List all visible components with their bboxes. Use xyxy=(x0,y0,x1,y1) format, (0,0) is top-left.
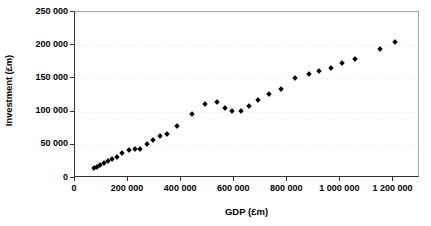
x-axis-tick xyxy=(180,177,181,181)
y-axis-tick-label: 0 xyxy=(63,173,68,182)
data-point xyxy=(255,97,261,103)
gridline xyxy=(75,78,418,79)
investment-gdp-scatter-chart: Investment (£m) 050 000100 000150 000200… xyxy=(0,0,431,226)
data-point xyxy=(238,108,244,114)
data-point xyxy=(292,75,298,81)
data-point xyxy=(144,142,150,148)
x-axis-title-label: GDP (£m) xyxy=(225,206,268,217)
data-point xyxy=(150,137,156,143)
x-axis-tick-label: 400 000 xyxy=(164,184,197,193)
gridline xyxy=(75,112,418,113)
data-point xyxy=(229,108,235,114)
plot-area xyxy=(74,11,419,177)
data-point xyxy=(266,91,272,97)
x-axis-tick xyxy=(127,177,128,181)
data-point xyxy=(114,154,120,160)
y-axis-title: Investment (£m) xyxy=(0,0,18,180)
x-axis-tick-label: 800 000 xyxy=(270,184,303,193)
data-point xyxy=(306,72,312,78)
x-axis-tick xyxy=(339,177,340,181)
x-axis-tick-label: 1 000 000 xyxy=(319,184,359,193)
data-point xyxy=(137,146,143,152)
x-axis-tick-label: 200 000 xyxy=(111,184,144,193)
data-point xyxy=(377,46,383,52)
x-axis-tick xyxy=(233,177,234,181)
x-axis-title: GDP (£m) xyxy=(74,206,419,217)
data-point xyxy=(392,39,398,45)
data-point xyxy=(157,133,163,139)
data-point xyxy=(105,158,111,164)
data-point xyxy=(339,60,345,66)
data-point xyxy=(97,162,103,168)
data-point xyxy=(109,157,115,163)
data-point xyxy=(165,131,171,137)
data-point xyxy=(101,160,107,166)
data-point xyxy=(91,166,97,172)
data-point xyxy=(202,101,208,107)
data-point xyxy=(278,87,284,93)
data-point xyxy=(246,103,252,109)
y-axis-tick-label: 100 000 xyxy=(35,106,68,115)
y-axis-tick-label: 50 000 xyxy=(40,139,68,148)
data-point xyxy=(174,123,180,129)
y-axis-tick-label: 250 000 xyxy=(35,7,68,16)
data-points-layer xyxy=(75,12,418,176)
data-point xyxy=(214,99,220,105)
data-point xyxy=(127,147,133,153)
data-point xyxy=(94,164,100,170)
data-point xyxy=(222,105,228,111)
x-axis-tick xyxy=(392,177,393,181)
x-axis-tick-label: 1 200 000 xyxy=(372,184,412,193)
x-axis-tick-label: 0 xyxy=(71,184,76,193)
x-axis-tick xyxy=(74,177,75,181)
x-axis-tick-label: 600 000 xyxy=(217,184,250,193)
y-axis-tick-label: 150 000 xyxy=(35,73,68,82)
gridline xyxy=(75,45,418,46)
gridline xyxy=(75,145,418,146)
data-point xyxy=(352,57,358,63)
data-point xyxy=(316,68,322,74)
data-point xyxy=(119,150,125,156)
gridlines xyxy=(75,12,418,176)
y-axis-tick-label: 200 000 xyxy=(35,40,68,49)
data-point xyxy=(328,65,334,71)
y-axis-title-label: Investment (£m) xyxy=(4,54,15,125)
data-point xyxy=(189,111,195,117)
data-point xyxy=(132,147,138,153)
x-axis-tick xyxy=(286,177,287,181)
gridline xyxy=(75,12,418,13)
